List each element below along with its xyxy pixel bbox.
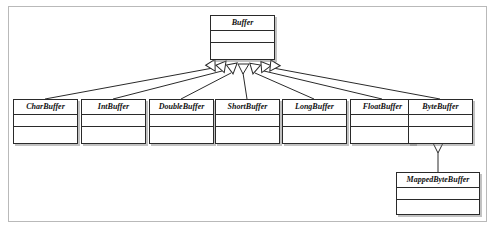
class-name-doublebuffer: DoubleBuffer <box>150 100 213 115</box>
class-attributes-compartment <box>211 31 274 43</box>
class-operations-compartment <box>150 127 213 143</box>
diagram-canvas: Buffer CharBuffer IntBuffer DoubleBuffer… <box>0 0 495 246</box>
class-operations-compartment <box>14 127 77 143</box>
class-operations-compartment <box>409 127 472 143</box>
class-name-charbuffer: CharBuffer <box>14 100 77 115</box>
class-box-charbuffer[interactable]: CharBuffer <box>13 99 78 144</box>
class-name-shortbuffer: ShortBuffer <box>216 100 279 115</box>
class-name-longbuffer: LongBuffer <box>283 100 346 115</box>
class-box-floatbuffer[interactable]: FloatBuffer <box>350 99 415 144</box>
class-attributes-compartment <box>397 188 479 200</box>
class-name-bytebuffer: ByteBuffer <box>409 100 472 115</box>
class-box-mappedbytebuffer[interactable]: MappedByteBuffer <box>396 172 480 215</box>
class-attributes-compartment <box>14 115 77 127</box>
class-name-intbuffer: IntBuffer <box>82 100 145 115</box>
class-attributes-compartment <box>150 115 213 127</box>
class-operations-compartment <box>397 200 479 214</box>
class-operations-compartment <box>211 43 274 59</box>
class-attributes-compartment <box>82 115 145 127</box>
class-operations-compartment <box>216 127 279 143</box>
class-box-doublebuffer[interactable]: DoubleBuffer <box>149 99 214 144</box>
class-name-mappedbytebuffer: MappedByteBuffer <box>397 173 479 188</box>
class-attributes-compartment <box>351 115 414 127</box>
class-attributes-compartment <box>283 115 346 127</box>
class-box-intbuffer[interactable]: IntBuffer <box>81 99 146 144</box>
class-attributes-compartment <box>409 115 472 127</box>
class-box-shortbuffer[interactable]: ShortBuffer <box>215 99 280 144</box>
class-operations-compartment <box>82 127 145 143</box>
class-name-buffer: Buffer <box>211 16 274 31</box>
class-operations-compartment <box>351 127 414 143</box>
class-operations-compartment <box>283 127 346 143</box>
class-name-floatbuffer: FloatBuffer <box>351 100 414 115</box>
class-attributes-compartment <box>216 115 279 127</box>
class-box-longbuffer[interactable]: LongBuffer <box>282 99 347 144</box>
class-box-buffer[interactable]: Buffer <box>210 15 275 60</box>
class-box-bytebuffer[interactable]: ByteBuffer <box>408 99 473 144</box>
